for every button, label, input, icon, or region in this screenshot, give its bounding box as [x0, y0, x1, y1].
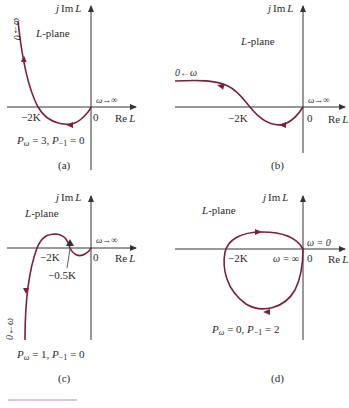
svg-text:(d): (d) [271, 372, 284, 385]
direction-arrow-icon [279, 122, 286, 128]
svg-text:ω→∞: ω→∞ [96, 95, 118, 105]
leader-line [67, 249, 70, 268]
svg-text:jImL: jImL [261, 191, 288, 203]
svg-text:L-plane: L-plane [240, 35, 275, 47]
svg-text:−2K: −2K [228, 252, 248, 264]
panel-b: jImL L-plane 0←ω ω→∞ −2K 0 ReL (b) [175, 2, 348, 172]
svg-text:L-plane: L-plane [201, 204, 236, 216]
svg-text:jImL: jImL [54, 191, 81, 203]
svg-text:Pω = 3, P−1 = 0: Pω = 3, P−1 = 0 [16, 134, 85, 148]
svg-text:ω→0: ω→0 [12, 18, 23, 40]
svg-text:jImL: jImL [54, 2, 81, 14]
svg-text:jImL: jImL [266, 2, 293, 14]
svg-text:(b): (b) [271, 159, 284, 172]
svg-text:Pω = 1, P−1 = 0: Pω = 1, P−1 = 0 [16, 348, 85, 362]
svg-text:L-plane: L-plane [35, 27, 70, 39]
svg-text:ReL: ReL [328, 113, 348, 125]
svg-text:−0.5K: −0.5K [48, 269, 76, 281]
svg-text:ReL: ReL [115, 112, 135, 124]
svg-text:0: 0 [93, 111, 99, 123]
svg-text:(c): (c) [58, 372, 71, 385]
svg-text:ω = ∞: ω = ∞ [273, 253, 299, 264]
svg-text:0: 0 [307, 112, 313, 124]
svg-text:L-plane: L-plane [24, 207, 59, 219]
direction-arrow-icon [66, 122, 73, 128]
svg-text:−2K: −2K [40, 251, 60, 263]
svg-text:ReL: ReL [115, 252, 135, 264]
svg-text:0: 0 [93, 251, 99, 263]
svg-text:ω→∞: ω→∞ [96, 235, 118, 245]
direction-arrow-icon [21, 56, 28, 63]
panel-d: jImL L-plane ω = 0 −2K ω = ∞ 0 ReL Pω = … [175, 191, 348, 385]
nyquist-figure: jImL L-plane ω→0 ω→∞ −2K 0 ReL Pω = 3, P… [0, 0, 349, 408]
svg-text:ω→∞: ω→∞ [308, 95, 330, 105]
nyquist-curve [25, 234, 91, 340]
nyquist-curve [224, 232, 303, 309]
panel-a: jImL L-plane ω→0 ω→∞ −2K 0 ReL Pω = 3, P… [7, 2, 136, 172]
svg-text:(a): (a) [58, 159, 71, 172]
svg-text:−2K: −2K [21, 111, 41, 123]
svg-text:Pω = 0, P−1 = 2: Pω = 0, P−1 = 2 [211, 323, 280, 337]
svg-text:ReL: ReL [328, 253, 348, 265]
svg-text:0←ω: 0←ω [175, 67, 197, 78]
svg-text:0: 0 [307, 252, 313, 264]
direction-arrow-icon [263, 309, 270, 315]
svg-text:ω = 0: ω = 0 [307, 237, 331, 248]
svg-text:−2K: −2K [228, 112, 248, 124]
direction-arrow-icon [255, 229, 262, 235]
svg-text:0←ω: 0←ω [4, 318, 15, 340]
panel-c: jImL L-plane ω→∞ −2K 0 ReL −0.5K 0←ω Pω … [4, 191, 136, 385]
